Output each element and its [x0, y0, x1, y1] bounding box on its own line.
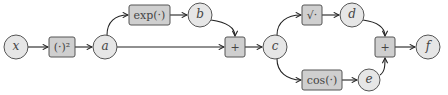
node-b-label: b: [196, 7, 204, 21]
node-c-label: c: [272, 39, 279, 53]
node-plus2-label: +: [380, 41, 389, 54]
edge-e-plus2: [380, 58, 385, 75]
node-sqrt-label: √·: [307, 9, 318, 22]
node-square-op: (·)²: [49, 37, 75, 57]
node-exp-op: exp(·): [129, 5, 170, 25]
node-x: x: [4, 35, 28, 59]
node-x-label: x: [13, 39, 20, 53]
node-e: e: [358, 69, 380, 91]
node-a-label: a: [101, 39, 108, 53]
node-exp-label: exp(·): [134, 9, 166, 22]
node-e-label: e: [365, 72, 372, 86]
edge-c-sqrt: [277, 15, 301, 35]
computational-graph: x (·)² a exp(·) b + c √· d cos(·) e: [0, 0, 448, 95]
node-cos-label: cos(·): [307, 74, 338, 87]
node-cos-op: cos(·): [302, 70, 342, 90]
node-d-label: d: [348, 7, 356, 21]
edge-d-plus2: [363, 20, 385, 36]
node-b: b: [188, 3, 212, 27]
node-d: d: [340, 3, 364, 27]
node-plus1-label: +: [230, 41, 239, 54]
edge-c-cos: [277, 59, 301, 80]
node-c: c: [263, 35, 287, 59]
node-plus2-op: +: [375, 37, 395, 57]
node-f: f: [416, 35, 440, 59]
edge-a-exp: [107, 15, 128, 35]
node-sqrt-op: √·: [302, 5, 322, 25]
edge-b-plus1: [211, 20, 235, 36]
node-a: a: [93, 35, 117, 59]
node-plus1-op: +: [225, 37, 245, 57]
node-square-label: (·)²: [54, 41, 71, 54]
